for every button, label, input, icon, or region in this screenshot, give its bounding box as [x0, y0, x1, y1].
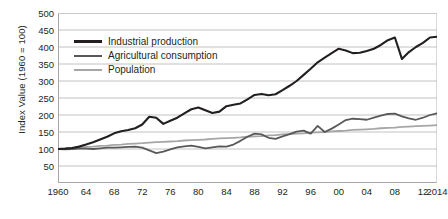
y-axis-tick: 350: [38, 59, 54, 70]
legend-color-swatch: [74, 69, 102, 71]
x-axis-tick: 80: [193, 186, 204, 197]
x-axis-tick: 08: [390, 186, 401, 197]
x-axis-tick-labels: 1960646872768084889296000408122014: [0, 186, 448, 208]
y-axis-tick: 400: [38, 42, 54, 53]
x-axis-tick: 04: [362, 186, 373, 197]
x-axis-tick: 72: [137, 186, 148, 197]
y-axis-tick: 100: [38, 144, 54, 155]
legend-color-swatch: [74, 40, 102, 43]
x-axis-tick: 96: [305, 186, 316, 197]
x-axis-tick: 68: [109, 186, 120, 197]
legend-item[interactable]: Agricultural consumption: [74, 50, 218, 61]
y-axis-tick: 250: [38, 93, 54, 104]
legend-item[interactable]: Population: [74, 64, 218, 75]
legend-label: Industrial production: [108, 36, 198, 47]
y-axis-tick: 500: [38, 8, 54, 19]
x-axis-tick: 84: [221, 186, 232, 197]
x-axis-tick: 1960: [47, 186, 68, 197]
y-axis-tick: 200: [38, 110, 54, 121]
y-axis-tick: 150: [38, 127, 54, 138]
x-axis-tick: 92: [277, 186, 288, 197]
chart-legend: Industrial productionAgricultural consum…: [74, 36, 218, 75]
x-axis-tick: 88: [249, 186, 260, 197]
x-axis-tick: 00: [333, 186, 344, 197]
y-axis-tick-labels: 50045040035030025020015010050: [22, 13, 54, 183]
legend-color-swatch: [74, 55, 102, 57]
y-axis-tick: 50: [43, 161, 54, 172]
x-axis-tick: 64: [81, 186, 92, 197]
x-axis-tick: 2014: [426, 186, 447, 197]
y-axis-tick: 300: [38, 76, 54, 87]
x-axis-tick: 76: [165, 186, 176, 197]
chart-container: Index Value (1960 = 100) 500450400350300…: [0, 0, 448, 219]
y-axis-tick: 450: [38, 25, 54, 36]
legend-label: Agricultural consumption: [108, 50, 218, 61]
legend-item[interactable]: Industrial production: [74, 36, 218, 47]
legend-label: Population: [108, 64, 155, 75]
